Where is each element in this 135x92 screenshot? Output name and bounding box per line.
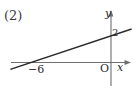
item-number-label: (2) [4,9,22,22]
x-intercept-tick-label: −6 [28,64,44,75]
y-axis-label: y [105,8,111,19]
x-axis-arrowhead [125,60,132,65]
y-axis [109,10,114,86]
origin-label: O [100,63,109,74]
x-axis-label: x [117,62,123,73]
y-intercept-tick-label: 2 [112,28,118,38]
coordinate-plane-figure: (2) y x O 2 −6 [0,0,135,92]
